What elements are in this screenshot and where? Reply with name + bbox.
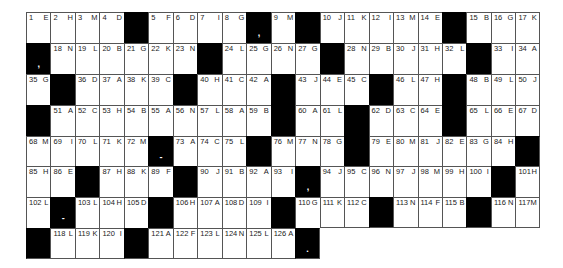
- grid-cell[interactable]: 25G: [246, 43, 270, 74]
- grid-cell[interactable]: 120I: [99, 228, 123, 259]
- grid-cell[interactable]: 68M: [26, 136, 50, 167]
- grid-cell[interactable]: 50J: [515, 74, 539, 105]
- grid-cell[interactable]: 85H: [26, 166, 50, 197]
- grid-cell[interactable]: 33I: [491, 43, 515, 74]
- grid-cell[interactable]: 10J: [320, 12, 344, 43]
- grid-cell[interactable]: 24L: [222, 43, 246, 74]
- grid-cell[interactable]: 102L: [26, 197, 50, 228]
- grid-cell[interactable]: 65L: [466, 105, 490, 136]
- grid-cell[interactable]: 42A: [246, 74, 270, 105]
- grid-cell[interactable]: 75L: [222, 136, 246, 167]
- grid-cell[interactable]: 87H: [99, 166, 123, 197]
- grid-cell[interactable]: 44E: [320, 74, 344, 105]
- grid-cell[interactable]: 16G: [491, 12, 515, 43]
- grid-cell[interactable]: 106H: [173, 197, 197, 228]
- grid-cell[interactable]: 67D: [515, 105, 539, 136]
- grid-cell[interactable]: 108D: [222, 197, 246, 228]
- grid-cell[interactable]: 86E: [50, 166, 74, 197]
- grid-cell[interactable]: 95C: [344, 166, 368, 197]
- grid-cell[interactable]: 48B: [466, 74, 490, 105]
- grid-cell[interactable]: 79E: [369, 136, 393, 167]
- grid-cell[interactable]: 47H: [418, 74, 442, 105]
- grid-cell[interactable]: 32L: [442, 43, 466, 74]
- grid-cell[interactable]: 59B: [246, 105, 270, 136]
- grid-cell[interactable]: 38K: [124, 74, 148, 105]
- grid-cell[interactable]: 62D: [369, 105, 393, 136]
- grid-cell[interactable]: 26N: [271, 43, 295, 74]
- grid-cell[interactable]: 64E: [418, 105, 442, 136]
- grid-cell[interactable]: 113N: [393, 197, 417, 228]
- grid-cell[interactable]: 91B: [222, 166, 246, 197]
- grid-cell[interactable]: 81J: [418, 136, 442, 167]
- grid-cell[interactable]: 56N: [173, 105, 197, 136]
- grid-cell[interactable]: 126A: [271, 228, 295, 259]
- grid-cell[interactable]: 39C: [148, 74, 172, 105]
- grid-cell[interactable]: 116N: [491, 197, 515, 228]
- grid-cell[interactable]: 117M: [515, 197, 539, 228]
- grid-cell[interactable]: 78G: [320, 136, 344, 167]
- grid-cell[interactable]: 13M: [393, 12, 417, 43]
- grid-cell[interactable]: 71K: [99, 136, 123, 167]
- grid-cell[interactable]: 76M: [271, 136, 295, 167]
- grid-cell[interactable]: 109I: [246, 197, 270, 228]
- grid-cell[interactable]: 83G: [466, 136, 490, 167]
- grid-cell[interactable]: 125L: [246, 228, 270, 259]
- grid-cell[interactable]: 20B: [99, 43, 123, 74]
- grid-cell[interactable]: 110G: [295, 197, 319, 228]
- grid-cell[interactable]: 118L: [50, 228, 74, 259]
- grid-cell[interactable]: 45C: [344, 74, 368, 105]
- grid-cell[interactable]: 58A: [222, 105, 246, 136]
- grid-cell[interactable]: 114F: [418, 197, 442, 228]
- grid-cell[interactable]: 18N: [50, 43, 74, 74]
- grid-cell[interactable]: 105D: [124, 197, 148, 228]
- grid-cell[interactable]: 93I: [271, 166, 295, 197]
- grid-cell[interactable]: 101H: [515, 166, 539, 197]
- grid-cell[interactable]: 119K: [75, 228, 99, 259]
- grid-cell[interactable]: 73A: [173, 136, 197, 167]
- grid-cell[interactable]: 41C: [222, 74, 246, 105]
- grid-cell[interactable]: 121A: [148, 228, 172, 259]
- grid-cell[interactable]: 84H: [491, 136, 515, 167]
- grid-cell[interactable]: 103L: [75, 197, 99, 228]
- grid-cell[interactable]: 7I: [197, 12, 221, 43]
- grid-cell[interactable]: 35G: [26, 74, 50, 105]
- grid-cell[interactable]: 49L: [491, 74, 515, 105]
- grid-cell[interactable]: 31H: [418, 43, 442, 74]
- grid-cell[interactable]: 46L: [393, 74, 417, 105]
- grid-cell[interactable]: 89F: [148, 166, 172, 197]
- grid-cell[interactable]: 98M: [418, 166, 442, 197]
- grid-cell[interactable]: 124N: [222, 228, 246, 259]
- grid-cell[interactable]: 22K: [148, 43, 172, 74]
- grid-cell[interactable]: 60A: [295, 105, 319, 136]
- grid-cell[interactable]: 53H: [99, 105, 123, 136]
- grid-cell[interactable]: 36D: [75, 74, 99, 105]
- grid-cell[interactable]: 21G: [124, 43, 148, 74]
- grid-cell[interactable]: 12I: [369, 12, 393, 43]
- grid-cell[interactable]: 123L: [197, 228, 221, 259]
- grid-cell[interactable]: 107A: [197, 197, 221, 228]
- grid-cell[interactable]: 112C: [344, 197, 368, 228]
- grid-cell[interactable]: 80M: [393, 136, 417, 167]
- grid-cell[interactable]: 19L: [75, 43, 99, 74]
- grid-cell[interactable]: 17K: [515, 12, 539, 43]
- grid-cell[interactable]: 69I: [50, 136, 74, 167]
- grid-cell[interactable]: 74C: [197, 136, 221, 167]
- grid-cell[interactable]: 6D: [173, 12, 197, 43]
- grid-cell[interactable]: 29B: [369, 43, 393, 74]
- grid-cell[interactable]: 3M: [75, 12, 99, 43]
- grid-cell[interactable]: 77N: [295, 136, 319, 167]
- grid-cell[interactable]: 34A: [515, 43, 539, 74]
- grid-cell[interactable]: 28N: [344, 43, 368, 74]
- grid-cell[interactable]: 70L: [75, 136, 99, 167]
- grid-cell[interactable]: 61L: [320, 105, 344, 136]
- grid-cell[interactable]: 5F: [148, 12, 172, 43]
- grid-cell[interactable]: 55A: [148, 105, 172, 136]
- grid-cell[interactable]: 23N: [173, 43, 197, 74]
- grid-cell[interactable]: 40H: [197, 74, 221, 105]
- grid-cell[interactable]: 115B: [442, 197, 466, 228]
- grid-cell[interactable]: 54B: [124, 105, 148, 136]
- grid-cell[interactable]: 111K: [320, 197, 344, 228]
- grid-cell[interactable]: 72M: [124, 136, 148, 167]
- grid-cell[interactable]: 94J: [320, 166, 344, 197]
- grid-cell[interactable]: 97J: [393, 166, 417, 197]
